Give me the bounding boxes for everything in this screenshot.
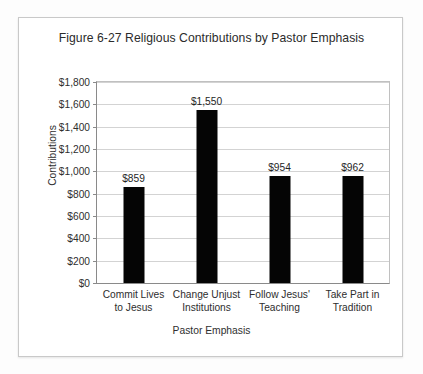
y-axis-tick-label: $1,600 xyxy=(59,99,90,110)
y-axis-tick-label: $600 xyxy=(67,211,90,222)
x-axis-category-label: Commit Livesto Jesus xyxy=(97,289,171,314)
x-axis-category-label: Take Part inTradition xyxy=(316,289,390,314)
bar-group: $859Commit Livesto Jesus xyxy=(97,82,170,283)
y-axis-tick-label: $1,200 xyxy=(59,144,90,155)
y-axis-tick-label: $400 xyxy=(67,233,90,244)
bar[interactable] xyxy=(342,176,363,283)
bar[interactable] xyxy=(269,176,290,283)
y-axis-tick-label: $1,800 xyxy=(59,77,90,88)
plot-area: $0$200$400$600$800$1,000$1,200$1,400$1,6… xyxy=(96,81,390,284)
chart-title: Figure 6-27 Religious Contributions by P… xyxy=(19,31,404,45)
x-axis-title: Pastor Emphasis xyxy=(19,325,404,336)
bar-value-label: $1,550 xyxy=(191,96,222,107)
y-axis-tick-label: $800 xyxy=(67,188,90,199)
y-axis-tick-label: $1,400 xyxy=(59,121,90,132)
y-axis-tick xyxy=(93,283,97,284)
bar-value-label: $954 xyxy=(268,162,291,173)
y-axis-tick-label: $0 xyxy=(79,278,90,289)
y-axis-tick-label: $1,000 xyxy=(59,166,90,177)
figure-card: Figure 6-27 Religious Contributions by P… xyxy=(18,17,403,357)
bar-group: $962Take Part inTradition xyxy=(316,82,389,283)
y-axis-tick-label: $200 xyxy=(67,255,90,266)
x-axis-category-label: Follow Jesus'Teaching xyxy=(243,289,317,314)
bar-value-label: $962 xyxy=(341,162,364,173)
bar-value-label: $859 xyxy=(122,173,145,184)
x-axis-category-label: Change UnjustInstitutions xyxy=(170,289,244,314)
bar[interactable] xyxy=(123,187,144,283)
bar-group: $954Follow Jesus'Teaching xyxy=(243,82,316,283)
bar[interactable] xyxy=(196,110,217,283)
bar-group: $1,550Change UnjustInstitutions xyxy=(170,82,243,283)
y-axis-title: Contributions xyxy=(47,101,58,211)
